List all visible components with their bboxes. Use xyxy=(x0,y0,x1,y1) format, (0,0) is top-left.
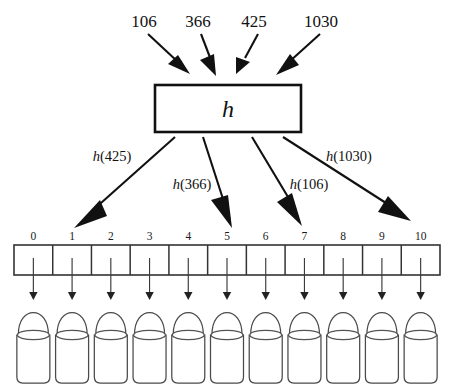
key-label-106: 106 xyxy=(131,12,157,31)
bucket-1[interactable] xyxy=(56,313,89,384)
bucket-body xyxy=(365,335,398,383)
bucket-body xyxy=(17,335,50,383)
bucket-10[interactable] xyxy=(404,313,437,384)
input-arrow-1030 xyxy=(276,34,320,75)
array-index-label-3: 3 xyxy=(147,230,153,242)
hash-result-label-h425: h(425) xyxy=(93,148,132,165)
key-label-366: 366 xyxy=(185,12,211,31)
bucket-9[interactable] xyxy=(365,313,398,384)
bucket-6[interactable] xyxy=(249,313,282,384)
buckets-group xyxy=(17,313,437,384)
array-index-label-4: 4 xyxy=(185,230,191,242)
input-arrow-106 xyxy=(148,34,190,74)
hash-result-labels-group: h(425) h(366) h(106) h(1030) xyxy=(93,148,372,193)
array-index-label-0: 0 xyxy=(30,230,36,242)
array-index-label-7: 7 xyxy=(302,230,308,242)
bucket-0[interactable] xyxy=(17,313,50,384)
input-arrow-366 xyxy=(200,34,216,76)
diagram-canvas: 106 366 425 1030 xyxy=(0,0,455,389)
bucket-rim xyxy=(56,330,88,339)
hash-result-label-h366: h(366) xyxy=(173,176,212,193)
bucket-rim xyxy=(366,330,398,339)
array-index-label-5: 5 xyxy=(224,230,230,242)
bucket-rim xyxy=(172,330,204,339)
bucket-5[interactable] xyxy=(211,313,244,384)
bucket-body xyxy=(133,335,166,383)
array-index-label-2: 2 xyxy=(108,230,114,242)
bucket-body xyxy=(94,335,127,383)
bucket-rim xyxy=(134,330,166,339)
bucket-rim xyxy=(95,330,127,339)
array-index-label-6: 6 xyxy=(263,230,269,242)
hash-function-box: h xyxy=(155,85,301,132)
key-labels-group: 106 366 425 1030 xyxy=(131,12,338,31)
bucket-body xyxy=(249,335,282,383)
hash-box-label: h xyxy=(222,96,234,122)
key-label-425: 425 xyxy=(241,12,267,31)
bucket-rim xyxy=(250,330,282,339)
hash-result-label-h106: h(106) xyxy=(290,176,329,193)
bucket-rim xyxy=(327,330,359,339)
array-index-label-1: 1 xyxy=(69,230,75,242)
array-index-label-10: 10 xyxy=(415,230,427,242)
bucket-2[interactable] xyxy=(94,313,127,384)
array-index-label-8: 8 xyxy=(340,230,346,242)
bucket-4[interactable] xyxy=(172,313,205,384)
bucket-body xyxy=(172,335,205,383)
bucket-body xyxy=(211,335,244,383)
hash-table-diagram: 106 366 425 1030 xyxy=(0,0,455,389)
bucket-7[interactable] xyxy=(288,313,321,384)
bucket-rim xyxy=(289,330,321,339)
bucket-body xyxy=(288,335,321,383)
input-arrow-425 xyxy=(236,34,258,74)
bucket-body xyxy=(404,335,437,383)
bucket-body xyxy=(327,335,360,383)
bucket-body xyxy=(56,335,89,383)
bucket-8[interactable] xyxy=(327,313,360,384)
hash-result-label-h1030: h(1030) xyxy=(326,148,372,165)
bucket-rim xyxy=(211,330,243,339)
bucket-rim xyxy=(405,330,437,339)
array-index-labels-group: 012345678910 xyxy=(30,230,426,242)
bucket-3[interactable] xyxy=(133,313,166,384)
key-label-1030: 1030 xyxy=(304,12,338,31)
input-arrows-group xyxy=(148,34,320,76)
bucket-rim xyxy=(17,330,49,339)
array-index-label-9: 9 xyxy=(379,230,385,242)
